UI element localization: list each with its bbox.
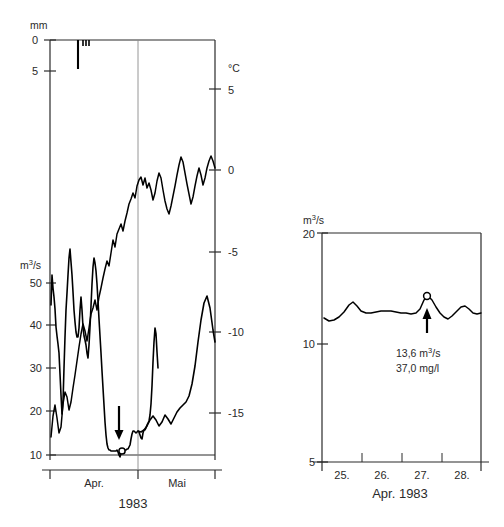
discharge-tick-40: 40 <box>30 319 42 331</box>
right-unit-base: m <box>303 214 312 226</box>
right-tick-5: 5 <box>309 456 315 468</box>
celsius-tick-minus5: -5 <box>228 246 238 258</box>
discharge-unit-base: m <box>20 259 29 271</box>
celsius-tick-5: 5 <box>228 84 234 96</box>
hydrograph-figure: mm 0 5 m3/s 50 40 30 20 10 °C 5 0 -5 -10 <box>0 0 504 527</box>
discharge-tick-30: 30 <box>30 362 42 374</box>
annotation-line-1: 13,6 m3/s <box>396 346 440 359</box>
month-label-april: Apr. <box>84 477 104 489</box>
celsius-tick-minus10: -10 <box>228 326 244 338</box>
mm-tick-5: 5 <box>32 65 38 77</box>
right-x-label-28: 28. <box>454 469 469 481</box>
right-unit-tail: /s <box>316 214 324 226</box>
annotation-unit-base: m <box>419 347 428 359</box>
discharge-tick-10: 10 <box>30 449 42 461</box>
right-x-label-27: 27. <box>414 469 429 481</box>
right-panel-x-axis-label: Apr. 1983 <box>372 486 428 501</box>
right-x-label-26: 26. <box>374 469 389 481</box>
annotation-line-2: 37,0 mg/l <box>396 362 439 374</box>
celsius-tick-minus15: -15 <box>228 407 244 419</box>
discharge-tick-20: 20 <box>30 405 42 417</box>
marker-circle-icon[interactable] <box>119 448 125 454</box>
right-tick-10: 10 <box>303 338 315 350</box>
right-tick-20: 20 <box>303 228 315 240</box>
mm-tick-0: 0 <box>32 34 38 46</box>
month-label-may: Mai <box>168 477 186 489</box>
figure-background <box>0 0 504 527</box>
celsius-tick-0: 0 <box>228 164 234 176</box>
discharge-unit-tail: /s <box>33 259 41 271</box>
left-panel-x-axis-label: 1983 <box>119 496 148 511</box>
celsius-unit-label: °C <box>228 62 240 74</box>
right-x-label-25: 25. <box>334 469 349 481</box>
discharge-tick-50: 50 <box>30 277 42 289</box>
annotation-circle-icon[interactable] <box>424 293 431 300</box>
annotation-value: 13,6 <box>396 347 417 359</box>
annotation-unit-tail: /s <box>432 347 440 359</box>
figure-root: mm 0 5 m3/s 50 40 30 20 10 °C 5 0 -5 -10 <box>0 0 504 527</box>
mm-unit-label: mm <box>30 19 48 31</box>
